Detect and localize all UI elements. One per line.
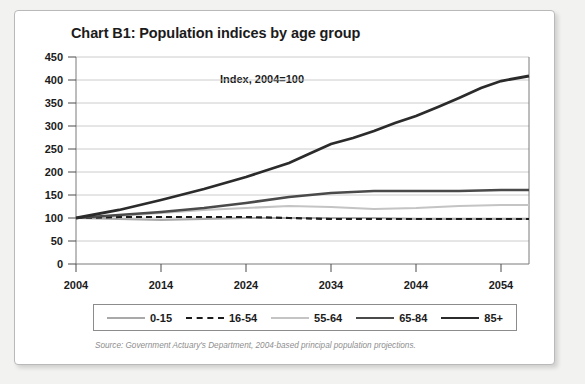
legend-label: 85+: [484, 312, 503, 324]
x-tick-marks: [76, 264, 501, 272]
chart-legend: 0-15 16-54 55-64 65-84: [93, 304, 517, 331]
legend-item-16-54: 16-54: [186, 312, 257, 324]
legend-item-85-plus: 85+: [441, 312, 503, 324]
source-note: Source: Government Actuary's Department,…: [95, 341, 416, 350]
series-line-55-64: [76, 205, 529, 218]
legend-label: 16-54: [229, 312, 257, 324]
legend-item-65-84: 65-84: [356, 312, 427, 324]
legend-label: 55-64: [314, 312, 342, 324]
legend-item-55-64: 55-64: [271, 312, 342, 324]
page-background: Chart B1: Population indices by age grou…: [0, 0, 585, 384]
y-tick-marks: [68, 57, 76, 264]
legend-label: 65-84: [399, 312, 427, 324]
legend-item-0-15: 0-15: [107, 312, 172, 324]
chart-figure-card: Chart B1: Population indices by age grou…: [14, 10, 555, 365]
legend-label: 0-15: [150, 312, 172, 324]
